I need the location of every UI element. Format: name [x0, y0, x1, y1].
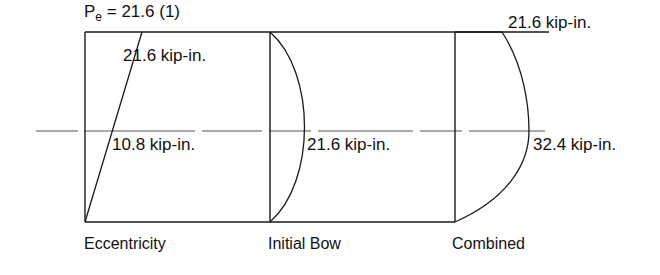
applied-moment-title: Pe = 21.6 (1) — [84, 3, 180, 23]
combined-top-value: 21.6 kip-in. — [508, 14, 591, 31]
initial-bow-mid-value: 21.6 kip-in. — [307, 136, 390, 153]
diagram-initial-bow — [270, 32, 305, 222]
caption-combined: Combined — [452, 235, 525, 253]
caption-initial-bow: Initial Bow — [268, 235, 341, 253]
diagram-combined — [455, 32, 529, 222]
initial-bow-moment-curve — [270, 32, 305, 222]
combined-mid-value: 32.4 kip-in. — [533, 136, 616, 153]
moment-diagram-figure: Pe = 21.6 (1) 21.6 kip-in. 10.8 kip-in. … — [0, 0, 660, 275]
eccentricity-mid-value: 10.8 kip-in. — [112, 136, 195, 153]
combined-moment-curve — [455, 32, 529, 222]
eccentricity-top-value: 21.6 kip-in. — [123, 47, 206, 64]
applied-moment-value: = 21.6 (1) — [102, 2, 180, 21]
caption-eccentricity: Eccentricity — [84, 235, 166, 253]
applied-moment-symbol: P — [84, 2, 95, 21]
